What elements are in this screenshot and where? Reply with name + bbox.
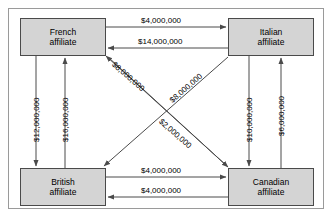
node-italian[interactable]: Italian affiliate — [228, 18, 314, 56]
node-italian-line1: Italian — [260, 27, 283, 38]
node-canadian[interactable]: Canadian affiliate — [228, 168, 314, 206]
node-british[interactable]: British affiliate — [20, 168, 106, 206]
node-british-line2: affiliate — [50, 187, 77, 198]
edge-label-italian-to-french: $14,000,000 — [138, 37, 183, 46]
node-italian-line2: affiliate — [258, 37, 285, 48]
node-french-line1: French — [50, 27, 76, 38]
edge-label-french-to-british: $12,000,000 — [32, 98, 41, 143]
node-british-line1: British — [51, 177, 75, 188]
edge-label-italian-to-canadian: $10,000,000 — [245, 98, 254, 143]
edge-label-british-to-french: $16,000,000 — [61, 98, 70, 143]
edge-label-canadian-to-italian: $6,000,000 — [277, 96, 286, 136]
node-french[interactable]: French affiliate — [20, 18, 106, 56]
edge-label-british-to-canadian: $4,000,000 — [141, 166, 181, 175]
edge-label-french-to-italian: $4,000,000 — [141, 16, 181, 25]
node-canadian-line1: Canadian — [253, 177, 289, 188]
diagram-canvas: French affiliate Italian affiliate Briti… — [0, 0, 333, 218]
node-french-line2: affiliate — [50, 37, 77, 48]
node-canadian-line2: affiliate — [258, 187, 285, 198]
edge-label-canadian-to-british: $4,000,000 — [141, 186, 181, 195]
